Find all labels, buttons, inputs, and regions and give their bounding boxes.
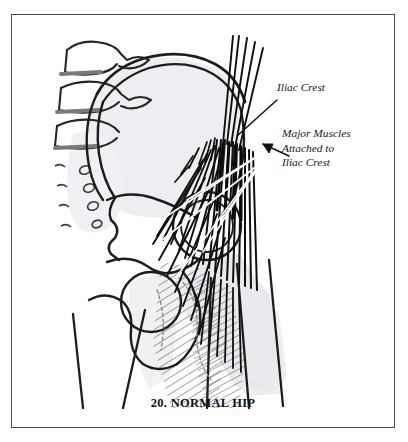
figure-caption: 20. NORMAL HIP	[11, 396, 395, 411]
annotation-iliac-crest: Iliac Crest	[277, 80, 325, 95]
annotation-major-muscles-line2: Attached to	[282, 141, 351, 156]
annotation-major-muscles-line3: Iliac Crest	[282, 155, 351, 170]
leg-outline-medial	[73, 314, 83, 408]
annotation-major-muscles-line1: Major Muscles	[282, 126, 351, 141]
annotation-iliac-crest-text: Iliac Crest	[277, 81, 325, 93]
annotation-major-muscles: Major Muscles Attached to Iliac Crest	[282, 126, 351, 170]
hip-anatomy-illustration	[11, 14, 395, 428]
figure-plate: Iliac Crest Major Muscles Attached to Il…	[0, 0, 408, 442]
